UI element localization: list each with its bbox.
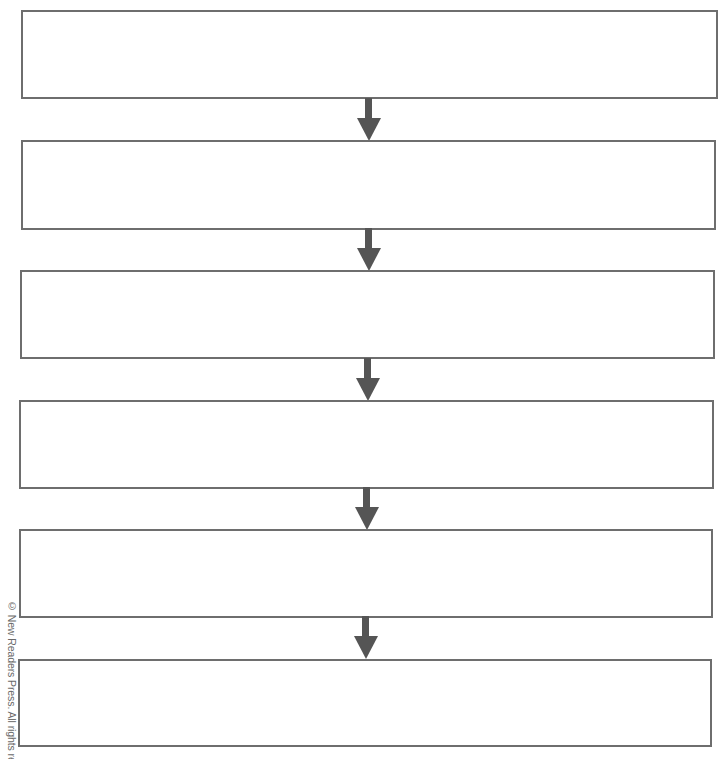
flow-box-5[interactable] xyxy=(19,529,713,618)
down-arrow-icon xyxy=(353,358,383,402)
down-arrow-icon xyxy=(354,228,384,272)
flow-box-3[interactable] xyxy=(20,270,715,359)
flow-box-2[interactable] xyxy=(21,140,716,230)
flow-box-4[interactable] xyxy=(19,400,714,489)
flow-box-1[interactable] xyxy=(21,10,718,99)
copyright-notice: © New Readers Press. All rights reserved… xyxy=(2,600,18,755)
flow-box-6[interactable] xyxy=(18,659,712,747)
down-arrow-icon xyxy=(351,616,381,660)
down-arrow-icon xyxy=(352,487,382,531)
down-arrow-icon xyxy=(354,98,384,142)
